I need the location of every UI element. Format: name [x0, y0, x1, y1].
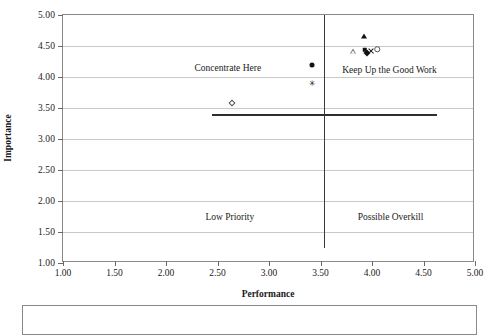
y-tick-label: 2.50: [38, 165, 55, 175]
gridline: [63, 232, 473, 233]
data-point-open-diamond: [228, 99, 235, 106]
caption-box: [22, 305, 477, 335]
gridline: [63, 139, 473, 140]
quadrant-label-lower-left: Low Priority: [205, 212, 254, 222]
x-tick-label: 2.00: [158, 268, 175, 278]
data-point-open-triangle: [350, 48, 356, 53]
x-tick-mark: [115, 261, 116, 266]
x-tick-label: 3.50: [312, 268, 329, 278]
x-tick-label: 3.00: [261, 268, 278, 278]
x-tick-mark: [321, 261, 322, 266]
x-tick-mark: [269, 261, 270, 266]
gridline: [63, 108, 473, 109]
gridline: [63, 201, 473, 202]
x-tick-mark: [372, 261, 373, 266]
y-tick-label: 4.50: [38, 41, 55, 51]
data-point-filled-circle: [310, 63, 315, 68]
quadrant-label-upper-right: Keep Up the Good Work: [342, 65, 437, 75]
y-tick-label: 5.00: [38, 10, 55, 20]
y-tick-mark: [58, 232, 63, 233]
y-tick-mark: [58, 170, 63, 171]
y-tick-label: 1.50: [38, 227, 55, 237]
y-tick-mark: [58, 77, 63, 78]
horizontal-reference-line: [212, 114, 437, 116]
x-tick-mark: [218, 261, 219, 266]
y-tick-label: 4.00: [38, 72, 55, 82]
y-tick-mark: [58, 46, 63, 47]
x-tick-mark: [424, 261, 425, 266]
plot-area: 1.001.502.002.503.003.504.004.505.00 1.0…: [62, 14, 474, 262]
x-tick-label: 5.00: [467, 268, 484, 278]
vertical-reference-line: [324, 15, 325, 248]
x-tick-label: 1.00: [55, 268, 72, 278]
y-tick-mark: [58, 15, 63, 16]
x-tick-label: 4.50: [415, 268, 432, 278]
gridline: [63, 77, 473, 78]
data-point-filled-triangle: [361, 34, 367, 39]
x-tick-mark: [166, 261, 167, 266]
y-tick-label: 1.00: [38, 258, 55, 268]
x-tick-mark: [475, 261, 476, 266]
gridline: [63, 46, 473, 47]
quadrant-label-lower-right: Possible Overkill: [358, 212, 424, 222]
y-tick-mark: [58, 139, 63, 140]
x-tick-label: 2.50: [209, 268, 226, 278]
x-tick-label: 1.50: [106, 268, 123, 278]
gridline: [63, 170, 473, 171]
y-tick-mark: [58, 108, 63, 109]
x-tick-label: 4.00: [364, 268, 381, 278]
y-axis-title: Importance: [3, 114, 13, 162]
x-tick-mark: [63, 261, 64, 266]
data-point-open-circle: [374, 46, 380, 52]
y-tick-label: 2.00: [38, 196, 55, 206]
quadrant-label-upper-left: Concentrate Here: [194, 63, 261, 73]
y-tick-label: 3.50: [38, 103, 55, 113]
y-tick-label: 3.00: [38, 134, 55, 144]
y-tick-mark: [58, 201, 63, 202]
x-axis-title: Performance: [242, 289, 295, 299]
